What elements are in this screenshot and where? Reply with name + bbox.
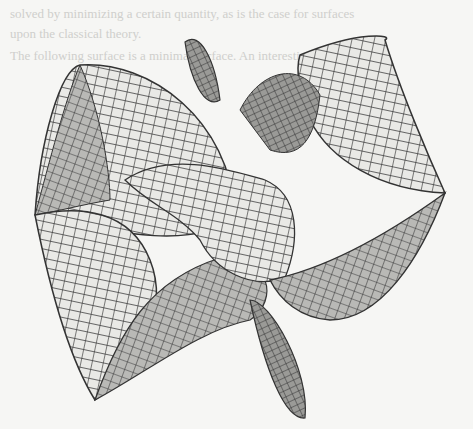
mesh-lobe-top: [185, 39, 220, 102]
mesh-surface-figure: [0, 0, 473, 429]
mesh-lobe-lower-right: [270, 193, 445, 320]
mesh-lobe-bottom: [250, 300, 305, 418]
mesh-lobe-upper-right: [298, 36, 445, 193]
